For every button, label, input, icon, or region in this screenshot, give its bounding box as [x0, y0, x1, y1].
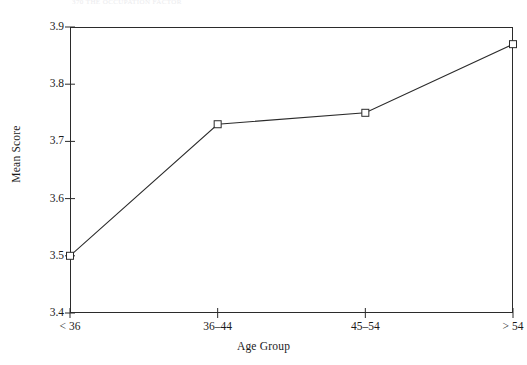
data-point-marker: [362, 109, 369, 116]
y-axis-tick-label: 3.5: [34, 250, 64, 262]
y-axis-ticks: [65, 27, 75, 313]
x-axis-tick-label: < 36: [25, 320, 115, 332]
data-point-marker: [214, 121, 221, 128]
data-point-marker: [67, 252, 74, 259]
data-line-series-mean-score: [70, 44, 513, 256]
y-axis-tick-label: 3.4: [34, 307, 64, 319]
x-axis-title: Age Group: [0, 340, 527, 352]
x-axis-tick-label: 36–44: [173, 320, 263, 332]
data-point-marker: [510, 41, 517, 48]
x-axis-tick-label: > 54: [468, 320, 527, 332]
chart-canvas: [0, 0, 527, 365]
y-axis-tick-label: 3.9: [34, 21, 64, 33]
y-axis-tick-label: 3.8: [34, 78, 64, 90]
figure-container: 370 THE OCCUPATION FACTOR 3.43.53.63.73.…: [0, 0, 527, 365]
y-axis-tick-labels: 3.43.53.63.73.83.9: [28, 0, 64, 365]
x-axis-tick-label: 45–54: [320, 320, 410, 332]
y-axis-tick-label: 3.7: [34, 135, 64, 147]
y-axis-title: Mean Score: [10, 114, 22, 194]
y-axis-tick-label: 3.6: [34, 193, 64, 205]
x-axis-ticks: [70, 308, 513, 318]
